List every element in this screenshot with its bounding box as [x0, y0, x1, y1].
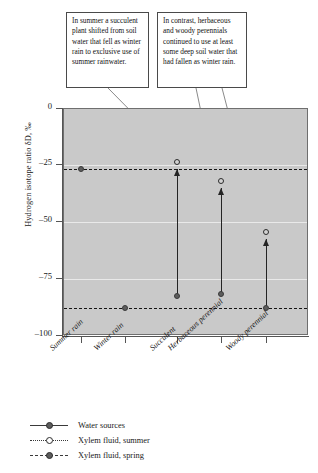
gridline-minus50 — [64, 222, 307, 223]
legend-item-water-sources: Water sources — [28, 418, 228, 433]
annotation-callout-succulent: In summer a succulent plant shifted from… — [66, 12, 149, 88]
point-water-source-summer-rain — [78, 166, 84, 172]
shift-line-herbaceous-perennial — [221, 188, 222, 294]
point-xylem-spring-herbaceous-perennial — [218, 291, 224, 297]
legend-item-xylem-summer: Xylem fluid, summer — [28, 433, 228, 448]
legend-item-xylem-spring: Xylem fluid, spring — [28, 448, 228, 463]
legend-label-water-sources: Water sources — [78, 418, 125, 433]
shift-arrow-succulent — [174, 169, 180, 176]
chart-legend: Water sources Xylem fluid, summer Xylem … — [28, 418, 228, 463]
point-xylem-spring-succulent — [174, 293, 180, 299]
shift-line-woody-perennial — [266, 239, 267, 308]
x-tick-winter-rain — [125, 337, 126, 343]
point-water-source-winter-rain — [122, 305, 128, 311]
shift-line-succulent — [177, 169, 178, 296]
shift-arrow-herbaceous-perennial — [218, 188, 224, 195]
point-xylem-summer-woody-perennial — [263, 229, 269, 235]
gridline-minus75 — [64, 279, 307, 280]
y-tick-0 — [56, 108, 63, 109]
reference-line-summer-rain — [64, 169, 307, 170]
y-axis-title: Hydrogen isotope ratio δD, ‰ — [24, 95, 33, 255]
legend-symbol-water-sources — [28, 418, 70, 433]
annotation-callout-perennial: In contrast, herbaceous and woody perenn… — [157, 12, 247, 88]
point-xylem-summer-succulent — [174, 159, 180, 165]
y-axis-line — [62, 108, 63, 336]
legend-symbol-xylem-spring — [28, 448, 70, 463]
gridline-minus25 — [64, 165, 307, 166]
legend-symbol-xylem-summer — [28, 433, 70, 448]
shift-arrow-woody-perennial — [263, 239, 269, 246]
y-tick-minus75 — [56, 278, 63, 279]
y-tick-label-minus100: –100 — [0, 328, 52, 338]
plot-area — [63, 108, 308, 335]
x-tick-summer-rain — [81, 337, 82, 343]
x-tick-herbaceous-perennial — [221, 337, 222, 343]
x-tick-woody-perennial — [266, 337, 267, 343]
y-tick-minus50 — [56, 221, 63, 222]
legend-label-xylem-summer: Xylem fluid, summer — [78, 433, 150, 448]
point-xylem-summer-herbaceous-perennial — [218, 178, 224, 184]
legend-label-xylem-spring: Xylem fluid, spring — [78, 448, 144, 463]
y-tick-minus25 — [56, 164, 63, 165]
reference-line-winter-rain — [64, 308, 307, 309]
y-tick-label-minus75: –75 — [0, 271, 52, 281]
figure-hydrogen-isotope-ratio: In summer a succulent plant shifted from… — [0, 0, 318, 473]
